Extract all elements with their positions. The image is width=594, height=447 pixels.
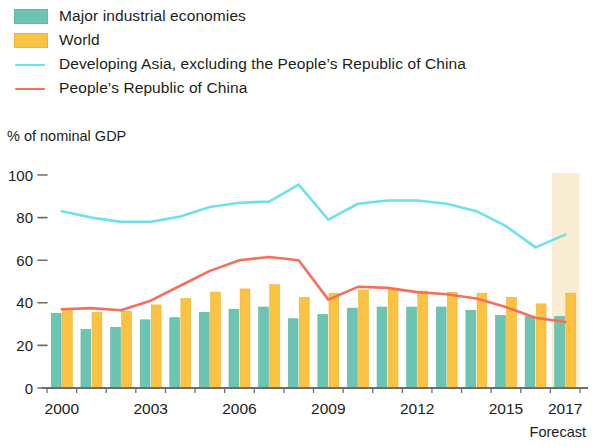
chart-svg: 020406080100 200020032006200920122015201… xyxy=(0,0,594,447)
svg-text:80: 80 xyxy=(16,209,33,226)
svg-text:2000: 2000 xyxy=(45,400,80,417)
svg-text:100: 100 xyxy=(8,167,33,184)
figure-root: Major industrial economies World Develop… xyxy=(0,0,594,447)
x-axis-tick-labels: 2000200320062009201220152017 xyxy=(45,400,583,417)
svg-text:2015: 2015 xyxy=(489,400,523,417)
line-series-prc xyxy=(62,257,565,322)
svg-text:40: 40 xyxy=(16,294,33,311)
forecast-note: Forecast xyxy=(530,424,586,440)
svg-text:2012: 2012 xyxy=(400,400,434,417)
svg-text:2006: 2006 xyxy=(222,400,256,417)
plot-area: 020406080100 200020032006200920122015201… xyxy=(0,0,594,447)
svg-text:2003: 2003 xyxy=(133,400,167,417)
svg-text:60: 60 xyxy=(16,252,33,269)
svg-text:2009: 2009 xyxy=(311,400,345,417)
svg-text:0: 0 xyxy=(25,380,33,397)
svg-text:2017: 2017 xyxy=(548,400,582,417)
line-series-developing-asia xyxy=(62,185,565,248)
svg-text:20: 20 xyxy=(16,337,33,354)
y-axis-ticks: 020406080100 xyxy=(8,167,47,397)
